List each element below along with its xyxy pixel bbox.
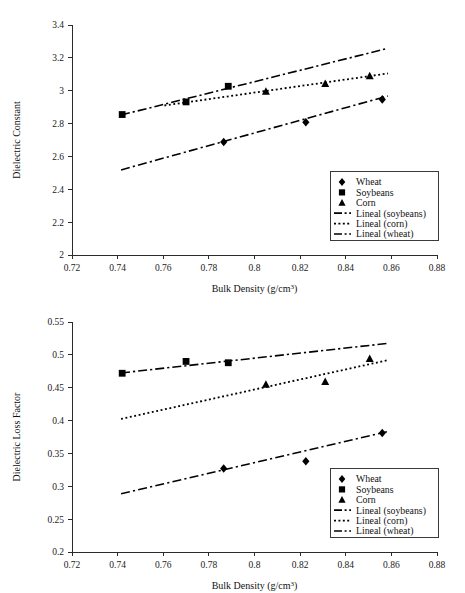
x-tick-label: 0.74 xyxy=(109,263,126,273)
y-tick-label: 2.4 xyxy=(52,185,64,195)
y-tick-label: 0.2 xyxy=(52,547,64,557)
x-tick-label: 0.72 xyxy=(64,263,81,273)
y-tick-label: 2.2 xyxy=(52,218,64,228)
y-tick-label: 3 xyxy=(59,86,64,96)
data-point-corn xyxy=(321,378,329,386)
y-tick-label: 2.8 xyxy=(52,119,64,129)
y-axis-title: Dielectric Constant xyxy=(11,101,22,179)
y-axis-title: Dielectric Loss Factor xyxy=(11,392,22,482)
x-tick-label: 0.78 xyxy=(201,263,218,273)
trendline-lineal-soybeans xyxy=(121,343,388,373)
x-tick-label: 0.74 xyxy=(109,560,126,570)
x-tick-label: 0.84 xyxy=(337,560,354,570)
trendline-lineal-wheat xyxy=(121,96,388,170)
x-tick-label: 0.82 xyxy=(292,263,309,273)
legend-label: Wheat xyxy=(356,473,382,484)
legend-label: Lineal (wheat) xyxy=(356,228,413,240)
x-tick-label: 0.72 xyxy=(64,560,81,570)
x-axis-title-tail: ) xyxy=(294,580,297,592)
x-tick-label: 0.78 xyxy=(201,560,218,570)
y-tick-label: 0.4 xyxy=(52,416,64,426)
x-tick-label: 0.86 xyxy=(383,560,400,570)
legend-label: Corn xyxy=(356,197,376,208)
plot-area-bottom: 0.20.250.30.350.40.450.50.550.720.740.76… xyxy=(0,297,465,593)
legend-label: Soybeans xyxy=(356,187,394,198)
data-point-wheat xyxy=(220,464,227,473)
x-axis-title: Bulk Density (g/cm3) xyxy=(212,283,298,296)
legend-label: Lineal (wheat) xyxy=(356,525,413,537)
square-marker xyxy=(339,486,345,492)
x-axis-title-main: Bulk Density (g/cm xyxy=(212,283,291,295)
x-tick-label: 0.82 xyxy=(292,560,309,570)
data-point-soybeans xyxy=(183,358,190,365)
y-tick-label: 3.2 xyxy=(52,53,64,63)
trendline-lineal-soybeans xyxy=(121,48,388,115)
x-tick-label: 0.86 xyxy=(383,263,400,273)
data-point-corn xyxy=(262,380,270,388)
plot-area-top: 22.22.42.62.833.23.40.720.740.760.780.80… xyxy=(0,0,465,296)
data-point-soybeans xyxy=(183,98,190,105)
x-axis-title-main: Bulk Density (g/cm xyxy=(212,580,291,592)
x-tick-label: 0.76 xyxy=(155,263,172,273)
chart-panel-dielectric-loss-factor: 0.20.250.30.350.40.450.50.550.720.740.76… xyxy=(0,297,465,593)
y-tick-label: 0.55 xyxy=(47,317,64,327)
data-point-corn xyxy=(321,79,329,87)
y-tick-label: 0.3 xyxy=(52,482,64,492)
square-marker xyxy=(339,189,345,195)
x-axis-title: Bulk Density (g/cm3) xyxy=(212,580,298,593)
data-point-wheat xyxy=(379,95,386,104)
data-point-soybeans xyxy=(225,83,232,90)
x-tick-label: 0.8 xyxy=(249,560,261,570)
y-tick-label: 0.35 xyxy=(47,449,64,459)
y-tick-label: 2.6 xyxy=(52,152,64,162)
data-point-soybeans xyxy=(225,359,232,366)
data-point-corn xyxy=(366,355,374,363)
data-point-corn xyxy=(366,72,374,80)
y-tick-label: 0.45 xyxy=(47,383,64,393)
legend-label: Wheat xyxy=(356,176,382,187)
data-point-wheat xyxy=(220,138,227,147)
data-point-soybeans xyxy=(119,111,126,118)
legend-label: Corn xyxy=(356,494,376,505)
data-point-wheat xyxy=(379,429,386,438)
x-tick-label: 0.8 xyxy=(249,263,261,273)
data-point-soybeans xyxy=(119,370,126,377)
chart-panel-dielectric-constant: 22.22.42.62.833.23.40.720.740.760.780.80… xyxy=(0,0,465,296)
x-tick-label: 0.76 xyxy=(155,560,172,570)
x-axis-title-tail: ) xyxy=(294,283,297,295)
y-tick-label: 2 xyxy=(59,250,64,260)
x-tick-label: 0.88 xyxy=(429,263,446,273)
legend-label: Soybeans xyxy=(356,484,394,495)
y-tick-label: 0.25 xyxy=(47,515,64,525)
x-tick-label: 0.88 xyxy=(429,560,446,570)
data-point-wheat xyxy=(302,457,309,466)
trendline-lineal-corn xyxy=(164,73,388,105)
y-tick-label: 3.4 xyxy=(52,20,64,30)
x-tick-label: 0.84 xyxy=(337,263,354,273)
y-tick-label: 0.5 xyxy=(52,350,64,360)
